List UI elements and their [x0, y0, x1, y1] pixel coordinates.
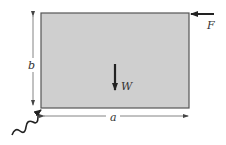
weight-label: W: [121, 80, 134, 93]
support-arrow-icon: [12, 110, 41, 135]
plate: [41, 13, 189, 108]
width-label: a: [110, 111, 117, 124]
plate-diagram: F W b a: [0, 0, 226, 145]
height-label: b: [28, 59, 35, 72]
force-label: F: [206, 19, 215, 32]
